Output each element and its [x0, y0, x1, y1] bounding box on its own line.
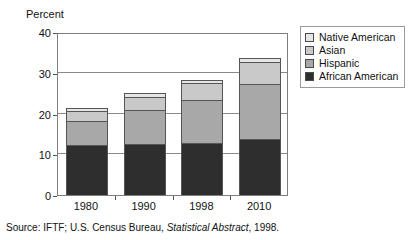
- legend-item-african-american[interactable]: African American: [305, 70, 398, 83]
- x-tick-label-1990: 1990: [114, 200, 174, 212]
- y-tick-mark-20: [53, 115, 57, 116]
- chart-legend: Native AmericanAsianHispanicAfrican Amer…: [300, 26, 405, 88]
- bar-segment-1998-asian[interactable]: [182, 84, 222, 102]
- source-note-title: Statistical Abstract: [167, 222, 249, 233]
- bar-segment-1980-hispanic[interactable]: [67, 122, 107, 146]
- source-note-suffix: , 1998.: [249, 222, 280, 233]
- x-tick-label-1998: 1998: [171, 200, 231, 212]
- bar-group-1998[interactable]: [182, 32, 222, 195]
- y-tick-label-0: 0: [27, 191, 51, 202]
- plot-area: [57, 33, 288, 196]
- legend-item-native-american[interactable]: Native American: [305, 31, 398, 44]
- legend-item-label: African American: [319, 71, 398, 82]
- legend-item-label: Hispanic: [319, 58, 359, 69]
- legend-swatch-icon: [305, 72, 314, 81]
- y-axis-title: Percent: [26, 8, 64, 20]
- y-tick-mark-0: [53, 196, 57, 197]
- bar-segment-1990-african-american[interactable]: [125, 145, 165, 195]
- bar-segment-2010-african-american[interactable]: [240, 140, 280, 195]
- legend-swatch-icon: [305, 33, 314, 42]
- bar-segment-1980-asian[interactable]: [67, 112, 107, 121]
- legend-swatch-icon: [305, 59, 314, 68]
- bar-group-2010[interactable]: [240, 32, 280, 195]
- x-tick-label-1980: 1980: [56, 200, 116, 212]
- y-tick-mark-40: [53, 33, 57, 34]
- bar-group-1980[interactable]: [67, 32, 107, 195]
- y-tick-label-30: 30: [27, 69, 51, 80]
- bar-stack-1998[interactable]: [181, 80, 223, 195]
- legend-swatch-icon: [305, 46, 314, 55]
- legend-item-hispanic[interactable]: Hispanic: [305, 57, 398, 70]
- legend-item-label: Asian: [319, 45, 345, 56]
- bar-stack-2010[interactable]: [239, 58, 281, 195]
- bar-segment-1990-hispanic[interactable]: [125, 111, 165, 145]
- y-tick-mark-30: [53, 74, 57, 75]
- bar-stack-1990[interactable]: [124, 93, 166, 195]
- bar-segment-2010-asian[interactable]: [240, 63, 280, 85]
- y-tick-mark-10: [53, 155, 57, 156]
- bar-segment-1998-hispanic[interactable]: [182, 101, 222, 143]
- bar-segment-1980-african-american[interactable]: [67, 146, 107, 195]
- x-tick-label-2010: 2010: [229, 200, 289, 212]
- source-note: Source: IFTF; U.S. Census Bureau, Statis…: [6, 222, 279, 234]
- legend-item-asian[interactable]: Asian: [305, 44, 398, 57]
- y-tick-label-20: 20: [27, 110, 51, 121]
- legend-item-label: Native American: [319, 32, 395, 43]
- bar-segment-2010-hispanic[interactable]: [240, 85, 280, 140]
- bar-stack-1980[interactable]: [66, 108, 108, 195]
- y-tick-label-10: 10: [27, 150, 51, 161]
- bar-segment-1990-asian[interactable]: [125, 98, 165, 111]
- y-tick-label-40: 40: [27, 28, 51, 39]
- bar-group-1990[interactable]: [125, 32, 165, 195]
- source-note-prefix: Source: IFTF; U.S. Census Bureau,: [6, 222, 167, 233]
- bar-segment-1998-african-american[interactable]: [182, 144, 222, 195]
